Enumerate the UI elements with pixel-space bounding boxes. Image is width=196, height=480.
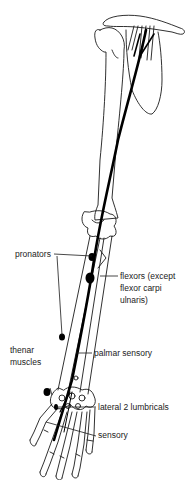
label-flexors-line2: flexor carpi xyxy=(120,283,162,293)
flexor-branch-dot xyxy=(86,273,95,284)
label-palmar-sensory: palmar sensory xyxy=(94,348,152,358)
thenar-dot xyxy=(44,388,51,396)
little-finger xyxy=(86,408,95,452)
label-lateral-2-lumbricals: lateral 2 lumbricals xyxy=(98,402,169,412)
index-finger xyxy=(40,412,67,474)
label-flexors-line3: ulnaris) xyxy=(120,295,148,305)
label-flexors-line1: flexors (except xyxy=(120,271,175,281)
pronator-branch-dot xyxy=(89,253,96,261)
label-thenar-line2: muscles xyxy=(10,357,41,367)
ring-finger xyxy=(72,412,87,476)
label-sensory: sensory xyxy=(98,430,128,440)
label-thenar-line1: thenar xyxy=(10,345,34,355)
median-nerve xyxy=(54,30,154,440)
label-pronators: pronators xyxy=(15,249,51,259)
humerus xyxy=(95,28,125,220)
clavicle xyxy=(103,15,184,34)
